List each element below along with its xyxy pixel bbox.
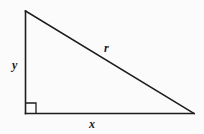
triangle-side-hypotenuse: [26, 11, 195, 114]
side-label-y: y: [10, 58, 18, 72]
side-label-r: r: [104, 41, 109, 55]
right-angle-square-icon: [26, 103, 36, 113]
right-triangle-svg: y r x: [0, 0, 204, 134]
side-label-x: x: [88, 117, 95, 131]
geometry-figure: y r x: [0, 0, 204, 134]
